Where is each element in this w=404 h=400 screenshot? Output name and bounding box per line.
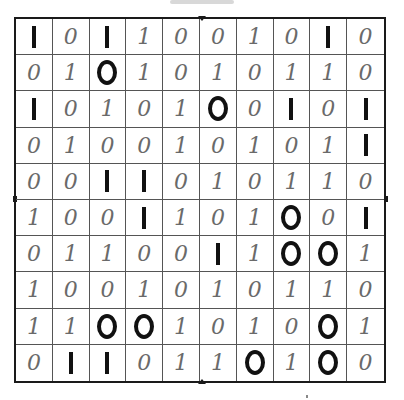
grid-cell[interactable]: 1 <box>126 19 163 55</box>
grid-cell[interactable]: 0 <box>237 164 274 200</box>
pencil-digit: 1 <box>174 96 188 121</box>
grid-cell[interactable]: 0 <box>237 272 274 308</box>
pencil-digit: 0 <box>359 24 373 49</box>
grid-cell[interactable]: 0 <box>310 91 347 127</box>
grid-cell[interactable]: 0 <box>274 128 311 164</box>
grid-cell[interactable]: 0 <box>53 200 90 236</box>
grid-cell[interactable]: 0 <box>163 272 200 308</box>
grid-cell[interactable]: 0 <box>200 19 237 55</box>
grid-cell[interactable]: 0 <box>16 55 53 91</box>
grid-cell[interactable]: 0 <box>126 91 163 127</box>
pencil-digit: 1 <box>248 133 262 158</box>
pencil-digit: 0 <box>64 277 78 302</box>
grid-cell[interactable]: 0 <box>200 309 237 345</box>
grid-cell[interactable]: 1 <box>163 345 200 381</box>
grid-cell[interactable]: 0 <box>126 236 163 272</box>
grid-cell[interactable]: 0 <box>90 128 127 164</box>
grid-cell[interactable]: 0 <box>16 128 53 164</box>
grid-cell[interactable]: 1 <box>16 200 53 236</box>
grid-cell[interactable]: 0 <box>53 164 90 200</box>
grid-cell[interactable]: 0 <box>163 236 200 272</box>
grid-cell[interactable]: 0 <box>16 164 53 200</box>
given-digit: 1 <box>142 207 146 229</box>
pencil-digit: 0 <box>359 277 373 302</box>
grid-cell[interactable]: 0 <box>16 345 53 381</box>
grid-cell[interactable]: 0 <box>53 272 90 308</box>
pencil-digit: 1 <box>174 205 188 230</box>
grid-cell[interactable]: 1 <box>53 55 90 91</box>
grid-cell[interactable]: 1 <box>274 272 311 308</box>
grid-cell[interactable]: 1 <box>16 272 53 308</box>
grid-cell[interactable]: 1 <box>310 164 347 200</box>
grid-cell[interactable]: 1 <box>237 19 274 55</box>
grid-cell[interactable]: 1 <box>163 128 200 164</box>
grid-cell[interactable]: 0 <box>90 200 127 236</box>
pencil-digit: 1 <box>137 24 151 49</box>
grid-cell[interactable]: 1 <box>310 272 347 308</box>
grid-cell[interactable]: 0 <box>163 164 200 200</box>
grid-cell: 0 <box>310 236 347 272</box>
pencil-digit: 1 <box>174 350 188 375</box>
pencil-digit: 0 <box>27 350 41 375</box>
grid-cell[interactable]: 1 <box>163 91 200 127</box>
header-smudge <box>170 0 234 4</box>
grid-cell[interactable]: 1 <box>163 309 200 345</box>
grid-cell[interactable]: 1 <box>200 345 237 381</box>
grid-cell[interactable]: 0 <box>347 164 384 200</box>
pencil-digit: 0 <box>64 169 78 194</box>
pencil-digit: 0 <box>137 241 151 266</box>
pencil-digit: 1 <box>27 205 41 230</box>
grid-cell[interactable]: 1 <box>53 236 90 272</box>
grid-cell[interactable]: 0 <box>237 91 274 127</box>
grid-cell[interactable]: 1 <box>237 236 274 272</box>
grid-cell[interactable]: 1 <box>126 55 163 91</box>
pencil-digit: 0 <box>248 169 262 194</box>
pencil-digit: 0 <box>64 96 78 121</box>
grid-cell[interactable]: 1 <box>163 200 200 236</box>
grid-cell[interactable]: 1 <box>126 272 163 308</box>
grid-cell[interactable]: 0 <box>274 309 311 345</box>
grid-cell[interactable]: 1 <box>90 91 127 127</box>
grid-cell[interactable]: 0 <box>274 19 311 55</box>
grid-cell[interactable]: 1 <box>274 55 311 91</box>
grid-cell[interactable]: 1 <box>347 236 384 272</box>
given-digit: 1 <box>105 170 109 192</box>
grid-cell[interactable]: 0 <box>347 55 384 91</box>
grid-cell[interactable]: 1 <box>90 236 127 272</box>
grid-cell[interactable]: 1 <box>237 309 274 345</box>
grid-cell[interactable]: 0 <box>237 55 274 91</box>
grid-cell[interactable]: 0 <box>53 91 90 127</box>
grid-cell[interactable]: 0 <box>347 345 384 381</box>
grid-cell: 1 <box>347 200 384 236</box>
grid-cell[interactable]: 0 <box>200 128 237 164</box>
pencil-digit: 0 <box>64 205 78 230</box>
grid-cell[interactable]: 1 <box>53 128 90 164</box>
given-digit: 1 <box>142 170 146 192</box>
grid-cell[interactable]: 0 <box>163 19 200 55</box>
grid-cell[interactable]: 1 <box>347 309 384 345</box>
grid-cell[interactable]: 1 <box>237 128 274 164</box>
grid-cell[interactable]: 0 <box>310 200 347 236</box>
pencil-digit: 1 <box>211 60 225 85</box>
grid-cell[interactable]: 0 <box>163 55 200 91</box>
grid-cell[interactable]: 1 <box>274 164 311 200</box>
grid-cell[interactable]: 0 <box>347 19 384 55</box>
grid-cell[interactable]: 0 <box>126 128 163 164</box>
grid-cell[interactable]: 0 <box>53 19 90 55</box>
grid-cell[interactable]: 1 <box>237 200 274 236</box>
grid-cell[interactable]: 1 <box>200 164 237 200</box>
grid-cell[interactable]: 1 <box>310 128 347 164</box>
grid-cell[interactable]: 0 <box>16 236 53 272</box>
grid-cell[interactable]: 0 <box>200 200 237 236</box>
grid-cell[interactable]: 0 <box>347 272 384 308</box>
grid-cell: 0 <box>274 236 311 272</box>
grid-cell[interactable]: 0 <box>126 345 163 381</box>
grid-cell[interactable]: 1 <box>310 55 347 91</box>
grid-cell[interactable]: 1 <box>200 272 237 308</box>
grid-cell[interactable]: 1 <box>274 345 311 381</box>
grid-cell[interactable]: 1 <box>200 55 237 91</box>
given-digit: 1 <box>32 26 36 48</box>
grid-cell[interactable]: 1 <box>16 309 53 345</box>
grid-cell[interactable]: 1 <box>53 309 90 345</box>
grid-cell[interactable]: 0 <box>90 272 127 308</box>
